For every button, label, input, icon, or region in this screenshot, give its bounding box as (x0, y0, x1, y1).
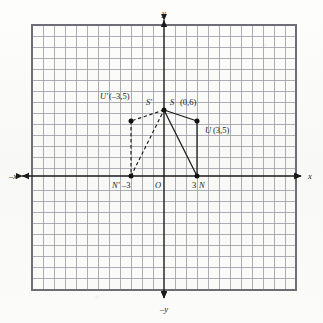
segment-n-prime-to-s-prime (131, 110, 164, 176)
point-marker-u (195, 119, 200, 124)
label-n-value: 3 (192, 180, 196, 190)
label-u-prime-coord: (–3,5) (109, 91, 130, 101)
point-marker-u-prime (129, 119, 134, 124)
label-n: N (198, 180, 206, 190)
figure-root: S' S (0,6) U' (–3,5) U (3,5) N' –3 3 N O… (0, 0, 323, 323)
label-y-axis: y (161, 8, 166, 18)
coordinate-plane: S' S (0,6) U' (–3,5) U (3,5) N' –3 3 N O… (0, 0, 323, 323)
label-u-coord: (3,5) (213, 125, 229, 135)
label-u-prime: U' (100, 91, 108, 101)
dashed-segments (131, 110, 164, 176)
label-u: U (205, 125, 212, 135)
label-n-prime-value: –3 (121, 180, 131, 190)
label-neg-y-axis: –y (159, 304, 168, 314)
solid-segments (164, 110, 197, 176)
point-marker-n (195, 174, 200, 179)
point-marker-s (162, 108, 167, 113)
label-s-prime: S' (146, 97, 152, 107)
label-neg-x-axis: –x (8, 171, 17, 181)
label-x-axis: x (307, 171, 312, 181)
label-origin: O (155, 180, 161, 190)
label-s-coord: (0,6) (180, 97, 196, 107)
point-marker-n-prime (129, 174, 134, 179)
label-n-prime: N' (111, 180, 120, 190)
